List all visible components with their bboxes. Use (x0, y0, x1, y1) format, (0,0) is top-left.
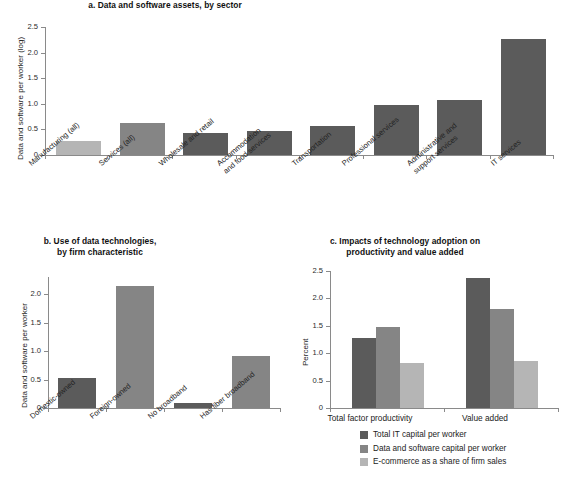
panel-b-ytick-label-2_0: 2.0 (16, 290, 41, 298)
panel-c-xtick-label-value-added: Value added (428, 413, 542, 423)
panel-c-xtick-0 (330, 408, 331, 412)
panel-c-ytick-2_5 (326, 271, 330, 272)
panel-c-plot-area: 2.5 2.0 1.5 1.0 0.5 0 (330, 271, 558, 408)
panel-a-ytick-label-1_0: 1.0 (12, 100, 38, 108)
panel-b-title: b. Use of data technologies, by firm cha… (0, 236, 200, 258)
panel-c-ytick-0_5 (326, 381, 330, 382)
panel-b-ytick-1_0 (44, 351, 48, 352)
panel-b-xtick-3 (222, 408, 223, 412)
panel-c-ytick-label-1_0: 1.0 (299, 349, 323, 357)
panel-a-ytick-label-2_5: 2.5 (12, 23, 38, 31)
panel-a-y-axis (45, 27, 46, 155)
panel-c-ytick-1_0 (326, 353, 330, 354)
panel-c-ytick-label-2_0: 2.0 (299, 294, 323, 302)
panel-b-ytick-1_5 (44, 323, 48, 324)
legend-label-total-it-capital-per-worker: Total IT capital per worker (373, 430, 467, 440)
panel-a-xtick-5 (363, 155, 364, 159)
panel-c-title-line-1: c. Impacts of technology adoption on (330, 236, 480, 246)
legend-item-total-it-capital-per-worker: Total IT capital per worker (360, 430, 506, 440)
legend-item-data-and-software-capital-per-worker: Data and software capital per worker (360, 444, 506, 454)
panel-b-plot-area: 2.0 1.5 1.0 0.5 0 (48, 277, 280, 408)
panel-c-ytick-2_0 (326, 298, 330, 299)
panel-b-ytick-0_5 (44, 380, 48, 381)
legend-swatch-total-it-capital-per-worker (360, 431, 368, 439)
legend-item-ecommerce-share-of-firm-sales: E-commerce as a share of firm sales (360, 457, 506, 467)
panel-a-ytick-label-2_0: 2.0 (12, 49, 38, 57)
legend-label-ecommerce-share-of-firm-sales: E-commerce as a share of firm sales (373, 457, 506, 467)
bar-tfp-data-and-software-capital-per-worker (376, 327, 400, 408)
panel-a-ytick-1_5 (41, 78, 45, 79)
panel-a-title: a. Data and software assets, by sector (0, 0, 330, 11)
panel-b-ytick-label-1_5: 1.5 (16, 319, 41, 327)
panel-c-ytick-1_5 (326, 326, 330, 327)
legend-label-data-and-software-capital-per-worker: Data and software capital per worker (373, 444, 506, 454)
bar-value-added-ecommerce-share-of-firm-sales (514, 361, 538, 408)
panel-c-legend: Total IT capital per worker Data and sof… (360, 430, 506, 471)
panel-a-ytick-label-0_5: 0.5 (12, 125, 38, 133)
panel-b: b. Use of data technologies, by firm cha… (0, 236, 290, 484)
panel-a-plot-area: 2.5 2.0 1.5 1.0 0.5 0 (45, 27, 553, 155)
panel-a-ytick-2_0 (41, 53, 45, 54)
panel-c: c. Impacts of technology adoption on pro… (290, 236, 567, 484)
panel-a-ytick-1_0 (41, 104, 45, 105)
legend-swatch-ecommerce-share-of-firm-sales (360, 458, 368, 466)
panel-b-ytick-label-0_5: 0.5 (16, 376, 41, 384)
panel-b-title-line-1: b. Use of data technologies, (44, 236, 157, 246)
panel-c-title: c. Impacts of technology adoption on pro… (290, 236, 520, 258)
bar-tfp-total-it-capital-per-worker (352, 338, 376, 408)
panel-c-title-line-2: productivity and value added (346, 247, 463, 257)
bar-tfp-ecommerce-share-of-firm-sales (400, 363, 424, 409)
panel-b-title-line-2: by firm characteristic (57, 247, 143, 257)
bar-it-services (501, 39, 546, 155)
legend-swatch-data-and-software-capital-per-worker (360, 445, 368, 453)
panel-a-ytick-0_5 (41, 129, 45, 130)
panel-c-xtick-2 (558, 408, 559, 412)
panel-b-ytick-label-1_0: 1.0 (16, 347, 41, 355)
panel-b-ytick-2_0 (44, 294, 48, 295)
panel-b-xtick-4 (280, 408, 281, 412)
panel-c-ytick-label-1_5: 1.5 (299, 322, 323, 330)
panel-c-xtick-1 (444, 408, 445, 412)
panel-a-ytick-label-1_5: 1.5 (12, 74, 38, 82)
panel-c-ytick-label-2_5: 2.5 (299, 267, 323, 275)
panel-c-y-axis (330, 271, 331, 408)
panel-b-y-axis (48, 277, 49, 408)
panel-c-xtick-label-total-factor-productivity: Total factor productivity (308, 413, 432, 423)
panel-c-ytick-label-0_5: 0.5 (299, 377, 323, 385)
bar-value-added-data-and-software-capital-per-worker (490, 309, 514, 408)
bar-value-added-total-it-capital-per-worker (466, 278, 490, 408)
panel-a-ytick-2_5 (41, 27, 45, 28)
panel-a-xtick-8 (553, 155, 554, 159)
panel-c-ytick-label-0: 0 (299, 404, 323, 412)
panel-a: a. Data and software assets, by sector D… (0, 0, 567, 236)
